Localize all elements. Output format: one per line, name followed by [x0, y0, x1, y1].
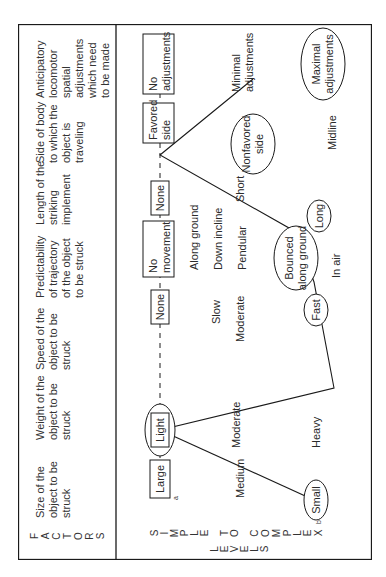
svg-text:Side of body: Side of body — [34, 101, 46, 163]
svg-text:object to be: object to be — [47, 383, 59, 440]
svg-text:which need: which need — [86, 42, 98, 99]
svg-text:Maximal: Maximal — [310, 44, 322, 85]
svg-text:None: None — [154, 185, 166, 211]
header-predictability: Predictability of trajectory of the obje… — [34, 235, 85, 298]
svg-text:X: X — [313, 529, 324, 536]
svg-text:S: S — [259, 545, 270, 552]
svg-text:adjustments: adjustments — [323, 34, 335, 94]
svg-text:of the object: of the object — [60, 238, 72, 298]
complex-side: Nonfavored side — [231, 114, 275, 174]
svg-text:Light: Light — [154, 418, 166, 442]
middle-speed-moderate: Moderate — [234, 296, 246, 342]
middle-anticipatory: Minimal adjustments — [230, 32, 255, 92]
svg-text:Speed of the: Speed of the — [34, 308, 46, 370]
svg-text:No: No — [147, 77, 159, 91]
svg-text:striking: striking — [47, 190, 59, 225]
simple-weight: Light — [145, 404, 175, 456]
svg-text:movement: movement — [160, 222, 172, 273]
svg-text:O: O — [260, 529, 271, 537]
svg-text:Small: Small — [310, 486, 322, 514]
svg-text:implement: implement — [60, 174, 72, 225]
svg-text:of trajectory: of trajectory — [47, 240, 59, 298]
svg-text:Length of the: Length of the — [34, 161, 46, 225]
svg-text:object to be: object to be — [47, 461, 59, 518]
svg-text:spatial: spatial — [60, 66, 72, 98]
svg-text:No: No — [147, 259, 159, 273]
svg-text:Minimal: Minimal — [230, 54, 242, 92]
svg-text:Large: Large — [154, 465, 166, 493]
complex-predictability: Bounced along ground — [274, 226, 318, 290]
svg-text:adjustments: adjustments — [73, 38, 85, 98]
svg-text:a: a — [172, 496, 179, 500]
svg-text:R: R — [84, 532, 95, 539]
svg-text:None: None — [154, 294, 166, 320]
middle-predictability-pendular: Pendular — [236, 226, 248, 270]
middle-speed-slow: Slow — [210, 300, 222, 324]
svg-text:Anticipatory: Anticipatory — [34, 40, 46, 98]
svg-text:adjustments: adjustments — [243, 32, 255, 92]
svg-text:struck: struck — [60, 340, 72, 370]
middle-predictability-down-incline: Down incline — [212, 208, 224, 270]
header-side: Side of body to which the object is trav… — [34, 101, 85, 163]
middle-weight: Moderate — [230, 402, 242, 448]
svg-text:side: side — [160, 120, 172, 140]
svg-text:C: C — [249, 529, 260, 536]
svg-text:to be made: to be made — [99, 43, 111, 98]
simple-size: a Large — [150, 460, 179, 500]
complex-anticipatory: Maximal adjustments — [301, 28, 345, 100]
simple-length: None — [151, 181, 169, 215]
svg-text:F: F — [29, 533, 40, 539]
simple-speed: None — [151, 290, 169, 324]
svg-text:adjustments: adjustments — [160, 31, 172, 91]
middle-size: Medium — [234, 459, 246, 498]
header-anticipatory: Anticipatory locomotor spatial adjustmen… — [34, 38, 111, 99]
simple-to-complex-axis: S I M P L E T O C O M P L E X — [149, 529, 324, 537]
middle-predictability-along-ground: Along ground — [188, 205, 200, 270]
svg-text:T: T — [62, 533, 73, 539]
svg-text:O: O — [73, 532, 84, 540]
svg-text:b: b — [315, 520, 322, 524]
svg-text:E: E — [302, 529, 313, 536]
complex-speed: Fast — [304, 294, 328, 326]
svg-text:Size of the: Size of the — [34, 466, 46, 518]
header-speed: Speed of the object to be struck — [34, 308, 72, 370]
svg-text:object to be: object to be — [47, 313, 59, 370]
svg-text:Weight of the: Weight of the — [34, 375, 46, 440]
svg-text:Long: Long — [313, 204, 325, 228]
svg-text:A: A — [40, 532, 51, 539]
svg-text:to which the: to which the — [47, 104, 59, 163]
levels-diagram: F A C T O R S Size of the object to be s… — [18, 24, 372, 560]
complex-length: Long — [307, 200, 331, 232]
svg-text:locomotor: locomotor — [47, 49, 59, 98]
svg-text:Bounced: Bounced — [283, 236, 295, 279]
svg-text:Fast: Fast — [310, 299, 322, 320]
complex-side-midline: Midline — [326, 115, 338, 150]
svg-text:along ground: along ground — [296, 226, 308, 290]
svg-text:S: S — [95, 532, 106, 539]
svg-text:E: E — [199, 529, 210, 536]
svg-text:object is: object is — [60, 122, 72, 163]
simple-anticipatory: No adjustments — [143, 31, 174, 94]
complex-weight: Heavy — [310, 416, 322, 448]
svg-text:struck: struck — [60, 410, 72, 440]
complex-size: b Small — [304, 480, 328, 524]
rotated-diagram: F A C T O R S Size of the object to be s… — [18, 24, 372, 560]
svg-text:traveling: traveling — [73, 121, 85, 163]
svg-text:struck: struck — [60, 488, 72, 518]
factors-label: F A C T O R S — [29, 532, 106, 540]
header-weight: Weight of the object to be struck — [34, 375, 72, 440]
svg-text:Predictability: Predictability — [34, 235, 46, 298]
middle-length: Short — [234, 176, 246, 202]
header-length: Length of the striking implement — [34, 161, 72, 225]
svg-text:M: M — [271, 529, 282, 537]
levels-label: L E V E L S — [209, 545, 270, 552]
svg-text:Favored: Favored — [147, 100, 159, 140]
svg-text:side: side — [253, 134, 265, 154]
svg-text:O: O — [229, 529, 240, 537]
complex-predictability-in-air: In air — [330, 253, 342, 278]
simple-side: Favored side — [143, 100, 174, 143]
svg-text:Nonfavored: Nonfavored — [240, 116, 252, 173]
header-size: Size of the object to be struck — [34, 461, 72, 518]
svg-text:to be struck: to be struck — [73, 241, 85, 298]
svg-text:C: C — [51, 532, 62, 539]
